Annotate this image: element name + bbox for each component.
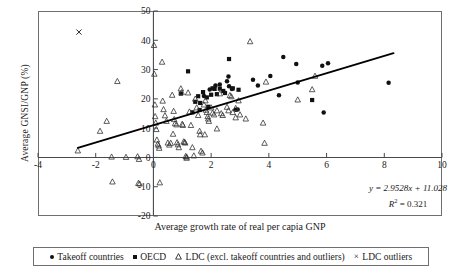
data-point: [152, 71, 158, 76]
y-tick-label: 30: [141, 65, 151, 75]
data-point: [186, 69, 190, 73]
data-point: [281, 55, 286, 60]
x-tick-label: 2: [209, 160, 214, 170]
data-point: [200, 150, 206, 155]
data-point: [251, 78, 256, 83]
data-point: [198, 101, 202, 105]
data-point: [220, 112, 226, 117]
data-point: [295, 97, 301, 102]
x-tick-label: 10: [437, 160, 447, 170]
data-point: [185, 90, 191, 95]
x-tick-label: -4: [34, 160, 42, 170]
r-squared-line: R2 = 0.321: [369, 195, 447, 211]
r-squared-value: = 0.321: [397, 199, 427, 209]
legend-item-label: OECD: [140, 252, 166, 262]
data-point: [225, 79, 230, 84]
data-point: [161, 107, 167, 112]
data-point: [247, 39, 253, 44]
data-point: [213, 87, 217, 91]
data-point: [237, 112, 243, 117]
y-tick-label: -20: [138, 211, 151, 221]
data-point: [386, 81, 391, 86]
data-point: [260, 120, 266, 125]
x-tick-label: 6: [324, 160, 329, 170]
data-point: [123, 154, 129, 159]
data-point: [154, 137, 160, 142]
x-tick-label: 4: [266, 160, 271, 170]
data-point: [160, 98, 166, 103]
data-point: [188, 122, 194, 127]
x-tick-label: 8: [382, 160, 387, 170]
x-tick-label: -2: [92, 160, 100, 170]
y-tick-label: 50: [141, 6, 151, 16]
data-point: [178, 86, 184, 91]
data-point: [194, 105, 200, 110]
data-point: [104, 118, 110, 123]
data-point: [236, 88, 240, 92]
chart-legend: Takeoff countriesOECDLDC (excl. takeoff …: [33, 247, 429, 266]
data-point: [157, 180, 163, 185]
scatter-plot-figure: Average GNSI/GNP (%) -4-20246810-20-1001…: [0, 0, 459, 273]
data-point: [268, 74, 273, 79]
regression-equation-annotation: y = 2.9528x + 11.028 R2 = 0.321: [369, 183, 447, 210]
data-point: [159, 59, 165, 64]
data-point: [162, 113, 168, 118]
data-point: [321, 110, 326, 115]
y-tick-label: 20: [141, 94, 151, 104]
x-tick-label: 0: [151, 160, 156, 170]
legend-item-label: Takeoff countries: [57, 252, 123, 262]
data-point: [309, 87, 315, 92]
data-point: [115, 78, 121, 83]
data-point: [110, 179, 116, 184]
data-point: [109, 154, 115, 159]
data-point: [97, 128, 103, 133]
legend-item-label: LDC outliers: [362, 252, 412, 262]
data-point: [256, 83, 260, 88]
data-point: [214, 126, 220, 131]
data-point: [231, 86, 235, 90]
data-point: [209, 93, 213, 97]
data-point: [218, 82, 223, 87]
data-point: [190, 145, 196, 150]
data-point: [169, 92, 175, 97]
filled-square-marker-icon: [133, 255, 137, 259]
open-triangle-marker-icon: [175, 253, 182, 260]
series-filled-square: [179, 57, 315, 114]
data-point: [201, 90, 205, 94]
data-point: [226, 108, 232, 113]
legend-item[interactable]: ×LDC outliers: [354, 252, 412, 262]
legend-item-label: LDC (excl. takeoff countries and outlier…: [186, 252, 345, 262]
data-point: [193, 100, 197, 104]
data-point: [223, 91, 227, 95]
data-point: [294, 62, 299, 67]
data-point: [243, 116, 249, 121]
series-cross: [76, 29, 81, 34]
trend-line: [78, 53, 394, 148]
data-point: [76, 29, 81, 34]
y-axis-title: Average GNSI/GNP (%): [20, 18, 30, 208]
data-point: [326, 61, 331, 66]
data-point: [214, 108, 220, 113]
data-point: [171, 108, 177, 113]
data-point: [262, 140, 268, 145]
regression-equation-line: y = 2.9528x + 11.028: [369, 183, 447, 195]
legend-item[interactable]: OECD: [133, 252, 166, 262]
data-point: [263, 79, 269, 84]
x-axis-title: Average growth rate of real per capia GN…: [38, 221, 442, 232]
data-point: [226, 74, 231, 79]
data-point: [170, 131, 176, 136]
data-point: [277, 93, 282, 98]
data-point: [151, 42, 157, 47]
filled-circle-marker-icon: [50, 255, 54, 259]
data-point: [227, 57, 231, 61]
data-point: [154, 126, 160, 131]
series-filled-circle: [202, 55, 391, 115]
data-point: [202, 132, 208, 137]
legend-item[interactable]: Takeoff countries: [50, 252, 124, 262]
y-tick-label: -10: [138, 182, 151, 192]
data-point: [310, 98, 314, 102]
y-tick-label: 0: [146, 153, 151, 163]
legend-item[interactable]: LDC (excl. takeoff countries and outlier…: [175, 252, 345, 262]
data-point: [320, 64, 325, 68]
cross-marker-icon: ×: [354, 252, 359, 261]
